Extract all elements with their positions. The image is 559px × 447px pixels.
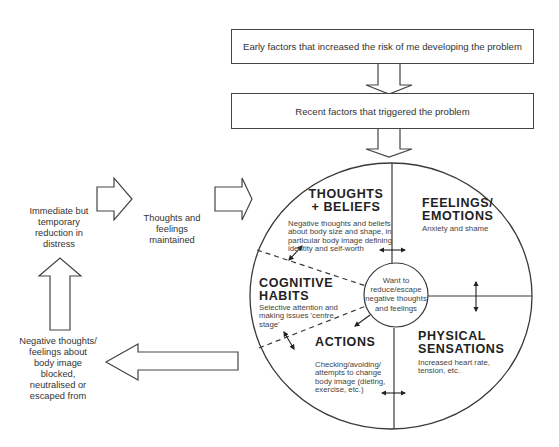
actions-heading: ACTIONS bbox=[315, 336, 375, 349]
feelings-heading: FEELINGS/ EMOTIONS bbox=[422, 197, 493, 223]
body-line: exercise, etc.) bbox=[315, 386, 395, 394]
physical-body: Increased heart rate, tension, etc. bbox=[418, 359, 490, 376]
right-arrow-icon bbox=[97, 178, 132, 220]
left-arrow-icon bbox=[106, 344, 238, 380]
down-arrow-icon bbox=[366, 128, 412, 157]
text-line: feelings about bbox=[14, 347, 102, 358]
text-line: maintained bbox=[140, 235, 204, 246]
recent-factors-text: Recent factors that triggered the proble… bbox=[295, 106, 469, 117]
immediate-relief-text: Immediate but temporary reduction in dis… bbox=[24, 206, 94, 250]
right-arrow-icon bbox=[215, 178, 252, 220]
cognitive-body: Selective attention and making issues 'c… bbox=[259, 304, 359, 329]
recent-factors-box: Recent factors that triggered the proble… bbox=[231, 93, 534, 129]
text-line: Negative thoughts/ bbox=[14, 336, 102, 347]
physical-heading: PHYSICAL SENSATIONS bbox=[418, 330, 504, 356]
thoughts-heading: THOUGHTS + BELIEFS bbox=[288, 188, 398, 214]
text-line: reduction in bbox=[24, 228, 94, 239]
center-line: negative thoughts bbox=[364, 294, 428, 303]
text-line: escaped from bbox=[14, 391, 102, 402]
body-line: Anxiety and shame bbox=[422, 225, 488, 233]
early-factors-text: Early factors that increased the risk of… bbox=[243, 41, 522, 52]
up-arrow-icon bbox=[39, 258, 81, 330]
heading-line: EMOTIONS bbox=[422, 210, 493, 223]
text-line: distress bbox=[24, 239, 94, 250]
body-line: tension, etc. bbox=[418, 367, 490, 375]
center-line: reduce/escape bbox=[364, 285, 428, 294]
heading-line: ACTIONS bbox=[315, 336, 375, 349]
center-line: Want to bbox=[364, 276, 428, 285]
text-line: neutralised or bbox=[14, 380, 102, 391]
thoughts-body: Negative thoughts and beliefs about body… bbox=[288, 220, 398, 254]
thoughts-section: THOUGHTS + BELIEFS bbox=[288, 188, 398, 214]
text-line: Thoughts and bbox=[140, 213, 204, 224]
down-arrow-icon bbox=[366, 63, 412, 94]
maintained-text: Thoughts and feelings maintained bbox=[140, 213, 204, 246]
heading-line: + BELIEFS bbox=[294, 201, 398, 214]
body-line: identity and self-worth bbox=[288, 245, 398, 253]
body-line: stage' bbox=[259, 321, 359, 329]
text-line: Immediate but bbox=[24, 206, 94, 217]
text-line: feelings bbox=[140, 224, 204, 235]
early-factors-box: Early factors that increased the risk of… bbox=[231, 29, 534, 64]
heading-line: SENSATIONS bbox=[418, 343, 504, 356]
center-text: Want to reduce/escape negative thoughts … bbox=[364, 276, 428, 313]
cognitive-heading: COGNITIVE HABITS bbox=[259, 277, 333, 303]
blocked-text: Negative thoughts/ feelings about body i… bbox=[14, 336, 102, 402]
actions-body: Checking/avoiding/ attempts to change bo… bbox=[315, 361, 395, 395]
text-line: temporary bbox=[24, 217, 94, 228]
center-line: and feelings bbox=[364, 304, 428, 313]
feelings-body: Anxiety and shame bbox=[422, 225, 488, 233]
text-line: body image bbox=[14, 358, 102, 369]
text-line: blocked, bbox=[14, 369, 102, 380]
heading-line: HABITS bbox=[259, 290, 333, 303]
